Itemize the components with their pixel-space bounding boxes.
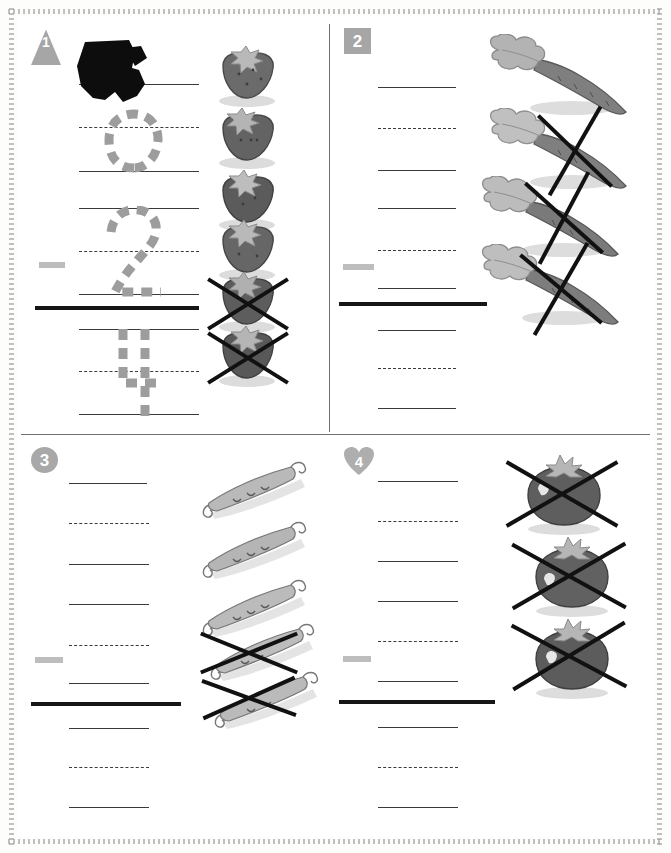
page-border-top xyxy=(8,9,663,14)
picture-item-carrot-4-crossed xyxy=(472,244,632,336)
rule-solid-4c-top xyxy=(378,727,458,728)
rule-solid-2b-bottom xyxy=(378,288,456,289)
rule-solid-2c-top xyxy=(378,330,456,331)
picture-item-strawberry-6-crossed xyxy=(209,326,285,392)
worksheet-content: 1 xyxy=(17,16,654,837)
problem-2: 2 xyxy=(330,16,654,434)
rule-dashed-2b-mid xyxy=(378,250,456,251)
page-border-left xyxy=(9,8,14,845)
problem-number-label: 2 xyxy=(353,33,362,50)
rule-solid-4a-top xyxy=(378,481,458,482)
trace-numeral-two xyxy=(103,206,167,298)
problem-number-badge-3: 3 xyxy=(31,447,58,473)
rule-dashed-3b-mid xyxy=(69,645,149,646)
rule-solid-4b-top xyxy=(378,601,458,602)
equals-bar-4 xyxy=(339,700,495,704)
rule-solid-4b-bottom xyxy=(378,681,458,682)
problem-number-badge-1: 1 xyxy=(31,28,61,65)
problem-1: 1 xyxy=(17,16,329,434)
rule-solid-3b-bottom xyxy=(69,683,149,684)
rule-solid-3b-top xyxy=(69,604,149,605)
rule-solid-4c-bottom xyxy=(378,807,458,808)
rule-solid-3a-top xyxy=(69,483,147,484)
student-pencil-scribble xyxy=(75,40,159,110)
problem-number-label: 1 xyxy=(42,35,50,49)
problem-number-badge-4: 4 xyxy=(344,447,374,475)
picture-item-peapod-1 xyxy=(195,459,319,525)
trace-numeral-four xyxy=(99,327,167,419)
worksheet-page: 1 xyxy=(0,0,671,853)
problem-4: 4 xyxy=(330,435,654,837)
picture-item-peapod-2 xyxy=(195,519,319,585)
rule-dashed-2a-mid xyxy=(378,128,456,129)
problem-3: 3 xyxy=(17,435,329,837)
rule-solid-3c-bottom xyxy=(69,807,149,808)
rule-dashed-4a-mid xyxy=(378,521,458,522)
rule-solid-2c-bottom xyxy=(378,408,456,409)
rule-dashed-2c-mid xyxy=(378,368,456,369)
minus-operator-2 xyxy=(343,264,374,270)
equals-bar-2 xyxy=(339,302,487,306)
picture-item-peapod-5-crossed xyxy=(207,669,331,735)
rule-dashed-4c-mid xyxy=(378,767,458,768)
picture-item-tomato-2-crossed xyxy=(516,535,624,623)
picture-item-strawberry-1 xyxy=(209,46,285,112)
rule-solid-3c-top xyxy=(69,728,149,729)
page-border-right xyxy=(657,8,662,845)
rule-dashed-3a-mid xyxy=(69,523,149,524)
page-border-bottom xyxy=(8,839,663,844)
rule-solid-2b-top xyxy=(378,208,456,209)
minus-operator-1 xyxy=(39,262,65,268)
picture-item-tomato-3-crossed xyxy=(516,617,624,705)
problem-number-label: 4 xyxy=(355,454,363,469)
rule-solid-3a-bottom xyxy=(69,564,149,565)
problem-number-label: 3 xyxy=(40,452,49,469)
equals-bar-1 xyxy=(35,306,199,310)
picture-item-tomato-1-crossed xyxy=(508,453,616,541)
rule-solid-2a-top xyxy=(378,87,456,88)
rule-dashed-4b-mid xyxy=(378,641,458,642)
rule-solid-2a-bottom xyxy=(378,170,456,171)
problem-number-badge-2: 2 xyxy=(344,28,371,54)
minus-operator-4 xyxy=(343,656,371,662)
equals-bar-3 xyxy=(31,702,181,706)
minus-operator-3 xyxy=(35,657,63,663)
rule-solid-4a-bottom xyxy=(378,561,458,562)
rule-dashed-3c-mid xyxy=(69,767,149,768)
picture-item-strawberry-2 xyxy=(209,108,285,174)
